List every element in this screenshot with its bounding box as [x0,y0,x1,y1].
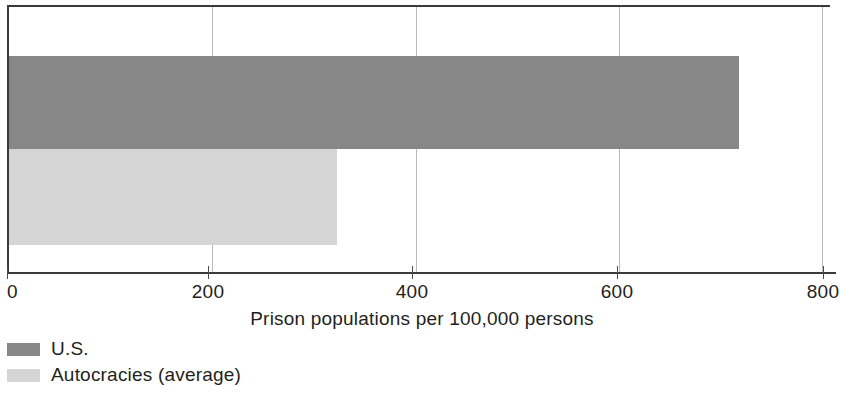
plot-area [7,5,830,273]
bar-autocracies [9,149,337,245]
x-axis-line [7,272,836,274]
tick-mark-200 [208,266,209,279]
bar-us [9,56,739,149]
bar-chart: 0 200 400 600 800 Prison populations per… [0,0,844,395]
tick-label-200: 200 [192,281,225,303]
legend-label-autocracies: Autocracies (average) [51,364,241,386]
x-axis-title: Prison populations per 100,000 persons [0,307,844,330]
gridline-800 [822,7,823,273]
legend-swatch-us-icon [7,343,40,356]
tick-mark-400 [412,266,413,279]
tick-label-600: 600 [601,281,634,303]
tick-label-400: 400 [396,281,429,303]
legend-swatch-autocracies-icon [7,369,40,382]
tick-label-800: 800 [807,281,840,303]
tick-mark-600 [617,266,618,279]
legend-item-us: U.S. [7,336,241,362]
tick-mark-0 [7,266,8,279]
tick-mark-800 [823,266,824,279]
legend-item-autocracies: Autocracies (average) [7,362,241,388]
legend: U.S. Autocracies (average) [7,336,241,388]
legend-label-us: U.S. [51,338,89,360]
tick-label-0: 0 [7,281,18,303]
